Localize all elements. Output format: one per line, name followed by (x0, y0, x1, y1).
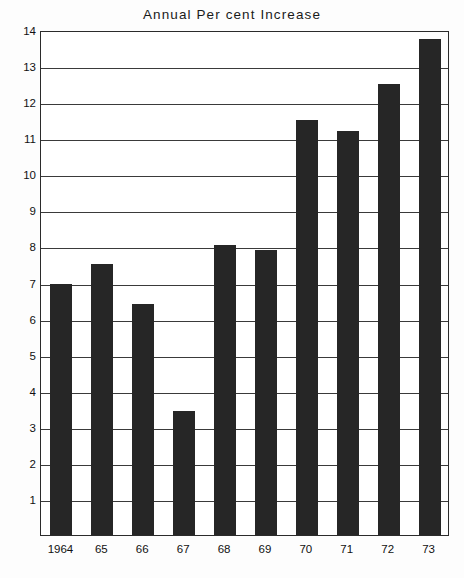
x-axis-tick-label: 1964 (48, 542, 74, 556)
bar (296, 120, 318, 535)
bar (91, 264, 113, 535)
x-axis-tick-labels: 1964656667686970717273 (40, 542, 449, 562)
x-axis-tick-label: 65 (95, 542, 108, 556)
bar (50, 284, 72, 535)
bar (255, 250, 277, 535)
plot-area (40, 31, 449, 536)
y-axis-tick-label: 5 (10, 350, 36, 361)
y-axis-tick-label: 12 (10, 98, 36, 109)
y-axis-tick-label: 1 (10, 494, 36, 505)
y-axis-tick-label: 11 (10, 134, 36, 145)
x-axis-tick-label: 73 (422, 542, 435, 556)
bar (419, 39, 441, 535)
y-axis-tick-label: 8 (10, 242, 36, 253)
y-axis-tick-label: 7 (10, 278, 36, 289)
y-axis-tick-label: 10 (10, 170, 36, 181)
x-axis-tick-label: 66 (136, 542, 149, 556)
x-axis-tick-label: 68 (218, 542, 231, 556)
x-axis-tick-label: 72 (381, 542, 394, 556)
y-axis-tick-label: 4 (10, 386, 36, 397)
bar-chart-figure: Annual Per cent Increase 141312111098765… (0, 0, 464, 578)
x-axis-tick-label: 69 (259, 542, 272, 556)
y-axis-tick-labels: 1413121110987654321 (6, 31, 36, 536)
bar (132, 304, 154, 535)
bar (337, 131, 359, 535)
chart-title: Annual Per cent Increase (0, 7, 464, 22)
y-axis-tick-label: 3 (10, 422, 36, 433)
x-axis-tick-label: 70 (299, 542, 312, 556)
gridline (41, 68, 448, 69)
y-axis-tick-label: 9 (10, 206, 36, 217)
bar (173, 411, 195, 535)
y-axis-tick-label: 13 (10, 62, 36, 73)
bar (214, 245, 236, 535)
x-axis-tick-label: 71 (340, 542, 353, 556)
bar (378, 84, 400, 535)
y-axis-tick-label: 2 (10, 458, 36, 469)
y-axis-tick-label: 6 (10, 314, 36, 325)
x-axis-tick-label: 67 (177, 542, 190, 556)
y-axis-tick-label: 14 (10, 26, 36, 37)
